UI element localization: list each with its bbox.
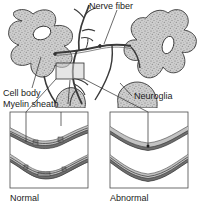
zoom-region-box — [56, 63, 84, 79]
caption-abnormal: Abnormal — [110, 193, 149, 203]
label-myelin-sheath: Myelin sheath — [3, 99, 59, 109]
caption-normal: Normal — [10, 193, 39, 203]
label-cell-body: Cell body — [3, 88, 41, 98]
label-nerve-fiber: Nerve fiber — [89, 1, 133, 11]
nerve-cell-diagram: Nerve fiber Cell body Myelin sheath Neur… — [0, 0, 199, 212]
axon-hillock-node — [54, 53, 57, 56]
synapse-node — [99, 45, 102, 48]
label-neuroglia: Neuroglia — [134, 91, 173, 101]
